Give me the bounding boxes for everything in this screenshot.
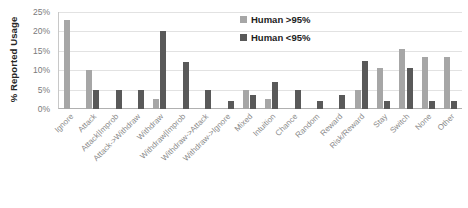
bar-group [81,12,103,109]
x-axis-label-slot: Risk/Reward [350,110,372,206]
x-axis-tick-label-text: Stay [371,112,389,130]
y-axis-title: % Reported Usage [0,0,28,118]
chart-legend: Human >95%Human <95% [240,14,310,43]
x-axis-tick-label-text: None [414,112,434,132]
bar [362,61,368,110]
y-axis-tick-label: 5% [18,86,50,95]
y-axis-tick-label: 15% [18,47,50,56]
bar-chart: % Reported Usage 25%20%15%10%5%0% Human … [0,0,468,208]
legend-label: Human >95% [251,14,310,25]
bar [399,49,405,109]
x-axis-tick-label-text: Other [436,112,457,133]
y-axis-tick-label: 25% [18,8,50,17]
bar [64,20,70,109]
bar-group [440,12,462,109]
y-axis-tick-label: 20% [18,27,50,36]
bar [183,62,189,109]
bar-group [395,12,417,109]
legend-item[interactable]: Human <95% [240,32,310,43]
bar [444,57,450,109]
legend-item[interactable]: Human >95% [240,14,310,25]
x-axis-labels: IgnoreAttackAttack|ImprobAttack->Withdra… [59,110,462,206]
y-axis-tick-label: 10% [18,66,50,75]
bar-group [350,12,372,109]
legend-swatch-icon [240,16,247,23]
bar-group [104,12,126,109]
legend-label: Human <95% [251,32,310,43]
bar-group [59,12,81,109]
x-axis-tick-label-text: Ignore [53,112,75,134]
legend-swatch-icon [240,34,247,41]
bar [407,68,413,109]
y-axis-tick-label: 0% [18,105,50,114]
x-axis-label-slot: Other [440,110,462,206]
